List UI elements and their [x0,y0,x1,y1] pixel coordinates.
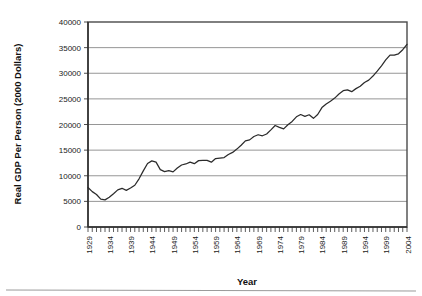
x-axis-title: Year [237,276,257,287]
x-tick-label: 1979 [297,235,306,253]
x-tick-label: 1944 [148,235,157,253]
x-tick-label: 1949 [170,235,179,253]
x-tick-label: 1964 [233,235,242,253]
x-tick-label: 1969 [255,235,264,253]
y-tick-label: 20000 [59,121,82,130]
x-tick-label: 1994 [361,235,370,253]
page-bottom-rule [6,290,416,291]
x-axis-tick-labels: 1929193419391944194919541959196419691974… [85,235,413,253]
x-tick-label: 1974 [276,235,285,253]
x-tick-label: 2004 [404,235,413,253]
gdp-per-person-line-chart: 0500010000150002000025000300003500040000… [0,0,422,296]
x-tick-label: 1934 [106,235,115,253]
y-axis-title: Real GDP Per Person (2000 Dollars) [12,44,23,205]
x-tick-label: 1959 [212,235,221,253]
x-tick-label: 1954 [191,235,200,253]
y-axis-tick-labels: 0500010000150002000025000300003500040000 [59,18,82,232]
x-tick-label: 1939 [127,235,136,253]
y-tick-label: 40000 [59,18,82,27]
y-tick-label: 15000 [59,146,82,155]
y-tick-label: 25000 [59,95,82,104]
x-tick-label: 1984 [318,235,327,253]
chart-svg: 0500010000150002000025000300003500040000… [0,0,422,296]
x-tick-label: 1999 [382,235,391,253]
y-tick-label: 30000 [59,69,82,78]
x-tick-label: 1989 [340,235,349,253]
y-tick-label: 5000 [63,197,81,206]
y-tick-label: 10000 [59,172,82,181]
y-tick-label: 35000 [59,44,82,53]
y-tick-label: 0 [77,223,82,232]
x-tick-label: 1929 [85,235,94,253]
